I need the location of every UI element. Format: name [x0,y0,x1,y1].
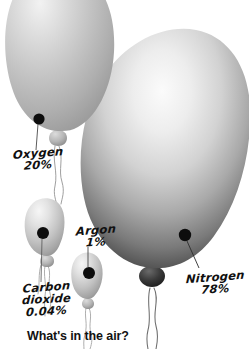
label-oxygen: Oxygen 20% [13,148,63,172]
carbon-dioxide-knot [40,255,54,267]
figure-caption: What's in the air? [27,329,129,343]
oxygen-marker-dot [33,113,44,124]
carbon-dioxide-marker-dot [37,227,49,239]
label-carbon-dioxide-percent: 0.04% [21,304,71,319]
label-oxygen-percent: 20% [12,158,63,173]
air-composition-figure: Oxygen 20% Nitrogen 78% Carbon dioxide 0… [0,0,249,349]
nitrogen-marker-dot [179,229,191,241]
argon-knot [82,298,94,309]
label-nitrogen: Nitrogen 78% [186,272,244,296]
label-carbon-dioxide: Carbon dioxide 0.04% [22,282,71,318]
label-argon-percent: 1% [76,236,117,250]
label-argon: Argon 1% [76,225,116,249]
argon-marker-dot [83,267,95,279]
label-nitrogen-percent: 78% [185,282,245,298]
